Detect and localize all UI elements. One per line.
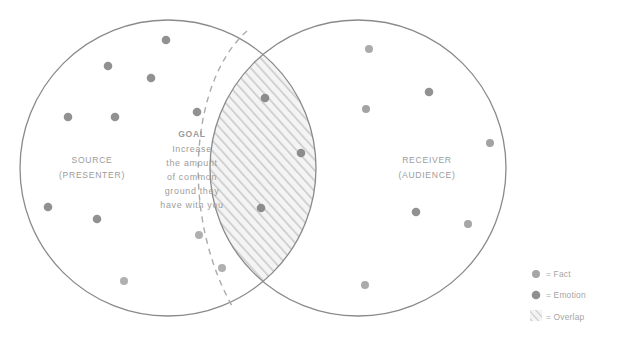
legend-item-emotion: = Emotion — [532, 290, 586, 300]
receiver-label-line2: (AUDIENCE) — [398, 170, 455, 180]
dot-emotion — [425, 88, 434, 97]
dot-emotion — [64, 113, 73, 122]
emotion-dot-icon — [532, 291, 541, 300]
dot-fact — [362, 105, 370, 113]
source-label-line2: (PRESENTER) — [59, 170, 125, 180]
goal-line-4: ground they — [165, 186, 220, 196]
dot-emotion — [261, 94, 270, 103]
overlap-region — [210, 20, 506, 316]
legend: = Fact = Emotion = Overlap — [530, 269, 586, 322]
goal-title: GOAL — [178, 129, 206, 139]
dot-emotion — [412, 208, 421, 217]
source-label: SOURCE (PRESENTER) — [59, 155, 125, 180]
legend-label-emotion: = Emotion — [546, 290, 586, 300]
goal-line-5: have with you — [160, 200, 223, 210]
dot-fact — [361, 281, 369, 289]
dot-emotion — [111, 113, 120, 122]
fact-dot-icon — [532, 270, 540, 278]
dot-emotion — [162, 36, 171, 45]
dot-fact — [464, 220, 472, 228]
dot-emotion — [44, 203, 53, 212]
dot-emotion — [104, 62, 113, 71]
dot-emotion — [297, 149, 306, 158]
dot-emotion — [147, 74, 156, 83]
overlap-hatch-icon — [530, 310, 542, 321]
legend-label-fact: = Fact — [546, 269, 571, 279]
goal-line-3: of common — [167, 172, 217, 182]
dot-fact — [120, 277, 128, 285]
dot-fact — [365, 45, 373, 53]
dot-fact — [218, 264, 226, 272]
legend-label-overlap: = Overlap — [546, 312, 584, 322]
dot-emotion — [193, 108, 202, 117]
dot-emotion — [93, 215, 102, 224]
dot-fact — [486, 139, 494, 147]
receiver-label-line1: RECEIVER — [402, 155, 452, 165]
legend-item-fact: = Fact — [532, 269, 571, 279]
goal-line-1: Increase — [172, 144, 212, 154]
dot-emotion — [257, 204, 266, 213]
source-label-line1: SOURCE — [72, 155, 113, 165]
venn-diagram-canvas: SOURCE (PRESENTER) RECEIVER (AUDIENCE) G… — [0, 0, 624, 343]
receiver-label: RECEIVER (AUDIENCE) — [398, 155, 455, 180]
receiver-dots — [361, 45, 494, 289]
goal-line-2: the amount — [166, 158, 217, 168]
legend-item-overlap: = Overlap — [530, 310, 584, 322]
venn-diagram: SOURCE (PRESENTER) RECEIVER (AUDIENCE) G… — [0, 0, 624, 343]
dot-fact — [195, 231, 203, 239]
